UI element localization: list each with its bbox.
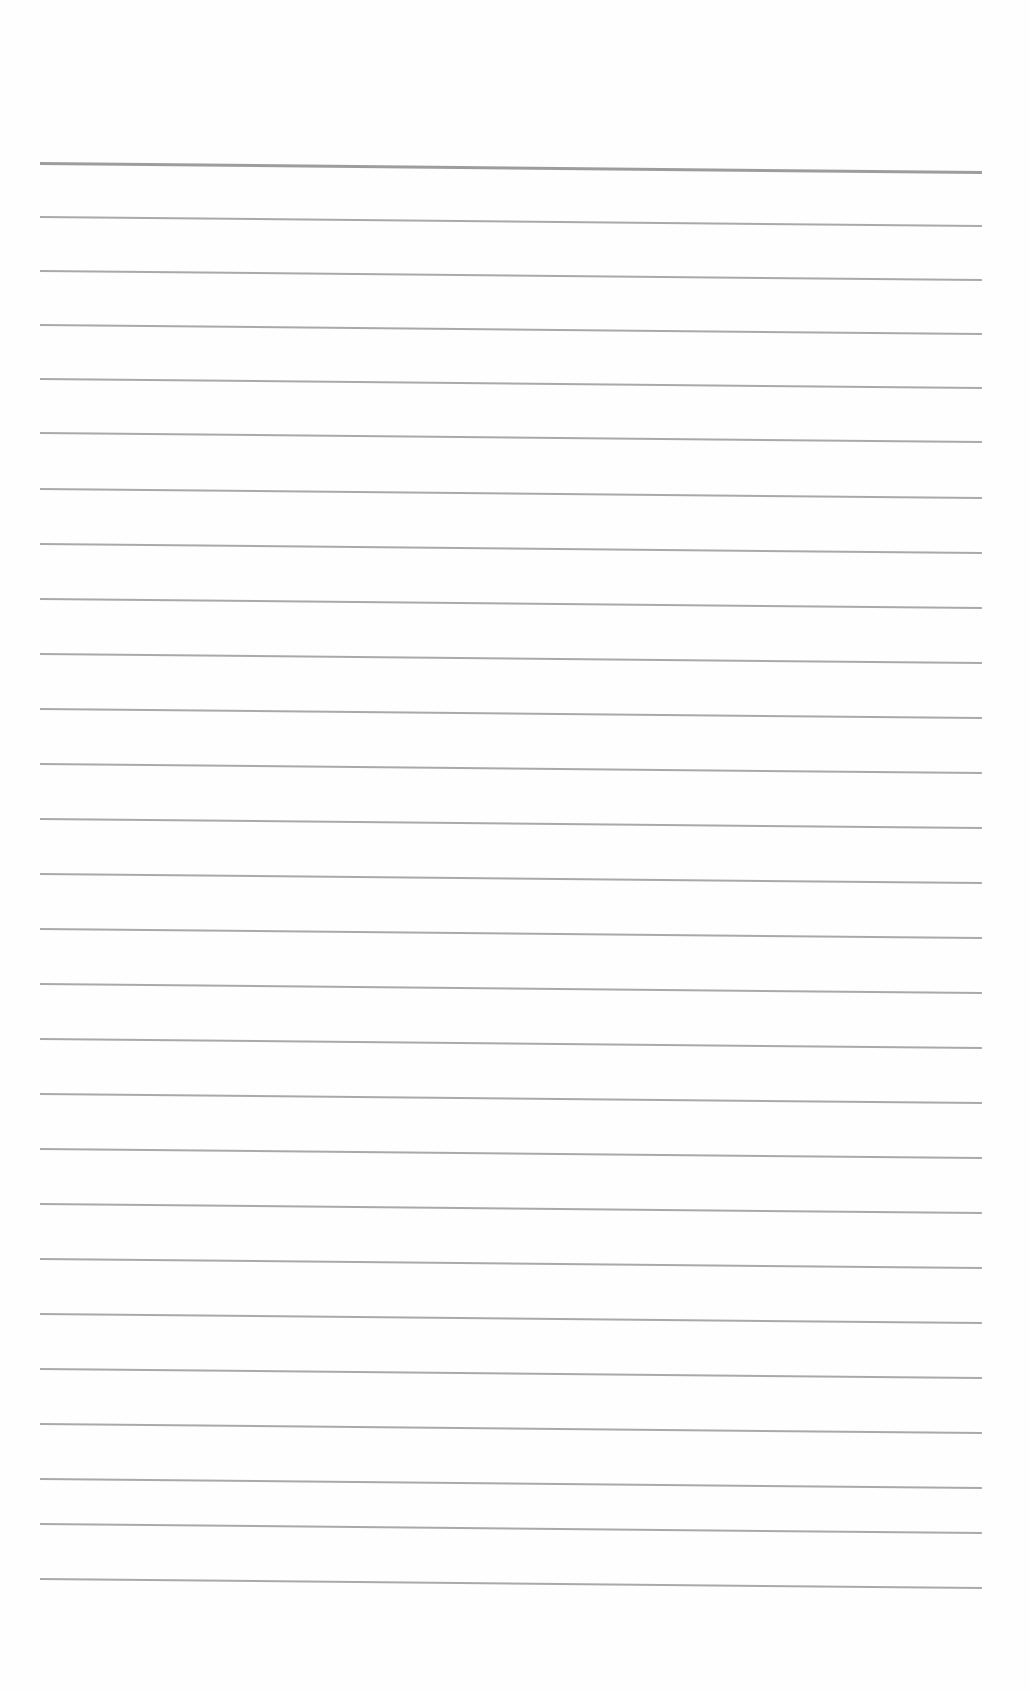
ruled-line	[40, 1478, 982, 1489]
ruled-line	[40, 598, 982, 609]
ruled-line	[40, 488, 982, 499]
ruled-line	[40, 378, 982, 389]
ruled-line	[40, 324, 982, 335]
ruled-line	[40, 432, 982, 443]
ruled-line	[40, 216, 982, 227]
ruled-line	[40, 1313, 982, 1324]
ruled-line	[40, 1093, 982, 1104]
ruled-line	[40, 1148, 982, 1159]
ruled-line	[40, 1578, 982, 1589]
ruled-line	[40, 708, 982, 719]
ruled-line	[40, 543, 982, 554]
ruled-line	[40, 928, 982, 939]
ruled-line	[40, 763, 982, 774]
ruled-line	[40, 1523, 982, 1534]
ruled-line	[40, 162, 982, 174]
ruled-line	[40, 818, 982, 829]
ruled-line	[40, 270, 982, 281]
ruled-line	[40, 653, 982, 664]
ruled-line	[40, 1203, 982, 1214]
ruled-line	[40, 1368, 982, 1379]
ruled-line	[40, 1038, 982, 1049]
ruled-line	[40, 1423, 982, 1434]
ruled-line	[40, 873, 982, 884]
ruled-line	[40, 983, 982, 994]
lined-paper-page	[0, 0, 1030, 1692]
ruled-line	[40, 1258, 982, 1269]
